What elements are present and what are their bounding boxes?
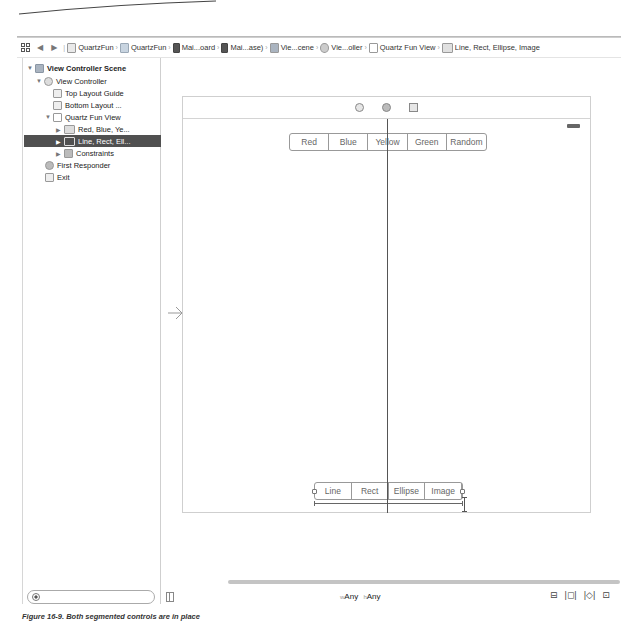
disclosure-triangle-icon[interactable]: ▶ bbox=[56, 126, 64, 133]
center-alignment-guide bbox=[387, 119, 388, 513]
outline-item-quartz-fun-view[interactable]: ▼ Quartz Fun View bbox=[45, 111, 161, 123]
outline-filter-input[interactable] bbox=[27, 590, 155, 604]
stack-icon[interactable]: ⊟ bbox=[550, 590, 558, 600]
segment-image[interactable]: Image bbox=[425, 483, 462, 499]
outline-item-shape-segmented-control[interactable]: ▶ Line, Rect, Ell... bbox=[24, 135, 161, 147]
bottom-spacing-constraint-indicator bbox=[464, 497, 465, 512]
breadcrumb-view[interactable]: Quartz Fun View bbox=[369, 43, 436, 53]
breadcrumb-scene[interactable]: Vie...cene bbox=[270, 43, 314, 53]
outline-item-color-segmented-control[interactable]: ▶ Red, Blue, Ye... bbox=[56, 123, 161, 135]
project-icon bbox=[67, 43, 76, 53]
forward-button[interactable]: ▶ bbox=[51, 43, 57, 52]
color-segmented-control[interactable]: Red Blue Yellow Green Random bbox=[289, 133, 487, 151]
breadcrumb-storyboard[interactable]: Mai...oard bbox=[173, 43, 215, 53]
scene-dock bbox=[183, 97, 590, 119]
disclosure-triangle-icon[interactable]: ▼ bbox=[36, 78, 44, 84]
outline-item-exit[interactable]: Exit bbox=[45, 171, 161, 183]
view-controller-icon[interactable] bbox=[355, 103, 364, 112]
outline-item-bottom-layout-guide[interactable]: Bottom Layout ... bbox=[53, 99, 161, 111]
constraints-icon bbox=[64, 149, 73, 158]
page-edge-decoration bbox=[16, 0, 216, 16]
exit-icon bbox=[45, 173, 54, 182]
outline-item-constraints[interactable]: ▶ Constraints bbox=[56, 147, 161, 159]
scene-icon bbox=[35, 64, 44, 73]
segment-line[interactable]: Line bbox=[315, 483, 352, 499]
segmented-control-icon bbox=[442, 43, 453, 53]
breadcrumb-storyboard-base[interactable]: Mai...ase) bbox=[221, 43, 263, 53]
layout-guide-icon bbox=[53, 89, 62, 98]
auto-layout-toolbar: ⊟ |◻| |◇| ⊡ bbox=[550, 590, 610, 600]
first-responder-icon bbox=[45, 161, 54, 170]
resolve-issues-icon[interactable]: ⊡ bbox=[602, 590, 610, 600]
first-responder-icon[interactable] bbox=[382, 103, 391, 112]
layout-guide-icon bbox=[53, 101, 62, 110]
segment-green[interactable]: Green bbox=[408, 134, 447, 150]
size-class-control[interactable]: wAny hAny bbox=[340, 592, 381, 601]
pin-icon[interactable]: |◇| bbox=[584, 590, 596, 600]
breadcrumb-segmented-control[interactable]: Line, Rect, Ellipse, Image bbox=[442, 43, 540, 53]
disclosure-triangle-icon[interactable]: ▶ bbox=[56, 150, 64, 157]
resize-handle-right[interactable] bbox=[460, 489, 465, 494]
storyboard-file-icon bbox=[173, 43, 180, 53]
segment-red[interactable]: Red bbox=[290, 134, 329, 150]
segment-ellipse[interactable]: Ellipse bbox=[389, 483, 426, 499]
disclosure-triangle-icon[interactable]: ▶ bbox=[56, 138, 64, 145]
horizontal-scrollbar[interactable] bbox=[228, 580, 620, 584]
segment-rect[interactable]: Rect bbox=[352, 483, 389, 499]
disclosure-triangle-icon[interactable]: ▼ bbox=[27, 65, 35, 71]
shape-segmented-control[interactable]: Line Rect Ellipse Image bbox=[314, 482, 463, 500]
figure-caption: Figure 16-9. Both segmented controls are… bbox=[22, 612, 200, 621]
breadcrumb-folder[interactable]: QuartzFun bbox=[120, 43, 166, 53]
segmented-control-icon bbox=[64, 137, 75, 146]
filter-icon bbox=[32, 593, 40, 601]
view-controller-icon bbox=[44, 77, 53, 86]
segment-yellow[interactable]: Yellow bbox=[368, 134, 407, 150]
segment-blue[interactable]: Blue bbox=[329, 134, 368, 150]
exit-icon[interactable] bbox=[409, 103, 418, 112]
battery-icon bbox=[567, 124, 580, 128]
resize-handle-left[interactable] bbox=[312, 489, 317, 494]
folder-icon bbox=[120, 43, 129, 53]
segmented-control-icon bbox=[64, 125, 75, 134]
storyboard-file-icon bbox=[221, 43, 228, 53]
breadcrumb-project[interactable]: QuartzFun bbox=[67, 43, 113, 53]
related-items-grid-icon[interactable] bbox=[21, 43, 30, 52]
outline-item-view-controller[interactable]: ▼ View Controller bbox=[36, 75, 161, 87]
view-icon bbox=[53, 113, 62, 122]
disclosure-triangle-icon[interactable]: ▼ bbox=[45, 114, 53, 120]
view-controller-icon bbox=[320, 43, 329, 53]
toggle-outline-button[interactable] bbox=[166, 592, 174, 602]
outline-item-top-layout-guide[interactable]: Top Layout Guide bbox=[53, 87, 161, 99]
outline-item-first-responder[interactable]: First Responder bbox=[45, 159, 161, 171]
width-constraint-indicator bbox=[314, 503, 463, 504]
view-icon bbox=[369, 43, 378, 53]
breadcrumb-view-controller[interactable]: Vie...oller bbox=[320, 43, 362, 53]
back-button[interactable]: ◀ bbox=[37, 43, 43, 52]
outline-item-view-controller-scene[interactable]: ▼ View Controller Scene bbox=[27, 62, 161, 74]
view-controller-scene[interactable]: Red Blue Yellow Green Random Line Rect E… bbox=[182, 96, 591, 513]
jump-bar: ◀ ▶ | QuartzFun› QuartzFun› Mai...oard› … bbox=[17, 38, 621, 58]
align-icon[interactable]: |◻| bbox=[565, 590, 577, 600]
document-outline: ▼ View Controller Scene ▼ View Controlle… bbox=[22, 58, 161, 604]
scene-icon bbox=[270, 43, 279, 53]
segment-random[interactable]: Random bbox=[447, 134, 486, 150]
